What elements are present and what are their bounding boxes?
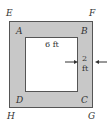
left-arrow-icon xyxy=(65,60,78,64)
right-arrow-icon xyxy=(95,60,107,64)
dimension-arrows xyxy=(0,0,109,121)
